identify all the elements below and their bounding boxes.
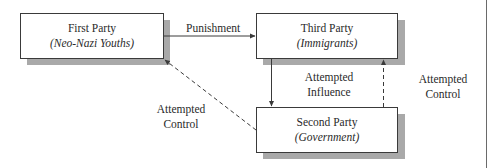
attempted-control-right-label-line1: Attempted (410, 72, 476, 87)
attempted-control-right-label: Attempted Control (410, 72, 476, 102)
attempted-control-left-label-line1: Attempted (148, 102, 214, 117)
relationship-diagram: First Party (Neo-Nazi Youths) Third Part… (0, 0, 489, 168)
attempted-control-left-label: Attempted Control (148, 102, 214, 132)
attempted-control-right-label-line2: Control (410, 87, 476, 102)
page-edge-rule (486, 0, 487, 168)
attempted-influence-label: Attempted Influence (292, 70, 366, 100)
attempted-control-left-label-line2: Control (148, 117, 214, 132)
punishment-label: Punishment (186, 21, 240, 36)
attempted-influence-label-line2: Influence (292, 85, 366, 100)
attempted-influence-label-line1: Attempted (292, 70, 366, 85)
